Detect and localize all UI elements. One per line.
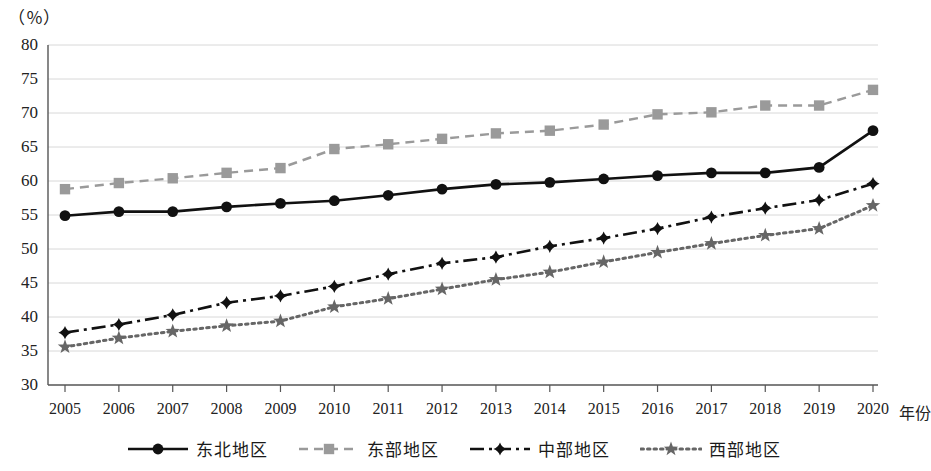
data-point-marker	[437, 134, 447, 144]
data-point-marker	[114, 178, 124, 188]
data-point-marker	[153, 443, 164, 454]
x-axis-tick-label: 2019	[803, 400, 835, 418]
data-point-marker	[219, 318, 233, 332]
series-line	[65, 131, 873, 216]
legend-star-marker	[640, 439, 702, 459]
data-point-marker	[383, 139, 393, 149]
data-point-marker	[166, 324, 180, 338]
chart-legend: 东北地区东部地区中部地区西部地区	[0, 436, 908, 461]
data-point-marker	[167, 206, 178, 217]
legend-item[interactable]: 西部地区	[640, 436, 781, 461]
data-point-marker	[328, 280, 341, 293]
y-axis-tick-label: 80	[4, 35, 38, 55]
y-axis-tick-label: 60	[4, 171, 38, 191]
data-point-marker	[597, 232, 610, 245]
y-axis-tick-label: 65	[4, 137, 38, 157]
x-axis-tick-label: 2012	[426, 400, 458, 418]
data-point-marker	[493, 442, 506, 455]
x-axis-tick-label: 2014	[534, 400, 566, 418]
data-point-marker	[329, 144, 339, 154]
data-point-marker	[664, 441, 678, 455]
x-axis-tick-label: 2016	[642, 400, 674, 418]
data-point-marker	[221, 168, 231, 178]
data-point-marker	[60, 184, 70, 194]
data-point-marker	[651, 222, 664, 235]
x-axis-tick-label: 2015	[588, 400, 620, 418]
x-axis-tick-label: 2010	[318, 400, 350, 418]
x-axis-tick-label: 2007	[157, 400, 189, 418]
y-axis-tick-label: 30	[4, 375, 38, 395]
legend-label: 中部地区	[538, 436, 610, 461]
data-point-marker	[652, 170, 663, 181]
data-point-marker	[58, 326, 71, 339]
data-point-marker	[491, 179, 502, 190]
data-point-marker	[543, 265, 557, 279]
data-point-marker	[812, 221, 826, 235]
data-point-marker	[759, 202, 772, 215]
data-point-marker	[273, 313, 287, 327]
legend-circle-marker	[127, 439, 189, 459]
series-line	[65, 184, 873, 333]
series-line	[65, 205, 873, 346]
legend-item[interactable]: 东部地区	[298, 436, 439, 461]
x-axis-tick-label: 2017	[695, 400, 727, 418]
data-point-marker	[324, 443, 334, 453]
legend-square-marker	[298, 439, 360, 459]
y-axis-tick-label: 50	[4, 239, 38, 259]
data-point-marker	[489, 251, 502, 264]
data-point-marker	[166, 308, 179, 321]
data-point-marker	[220, 296, 233, 309]
x-axis-tick-label: 2006	[103, 400, 135, 418]
data-point-marker	[381, 291, 395, 305]
x-axis-tick-label: 2008	[211, 400, 243, 418]
data-point-marker	[652, 109, 662, 119]
data-point-marker	[489, 272, 503, 286]
data-point-marker	[274, 289, 287, 302]
data-point-marker	[650, 245, 664, 259]
x-axis-tick-label: 2020	[857, 400, 889, 418]
data-point-marker	[868, 85, 878, 95]
legend-label: 东北地区	[196, 436, 268, 461]
y-axis-tick-label: 70	[4, 103, 38, 123]
data-point-marker	[327, 299, 341, 313]
data-point-marker	[760, 100, 770, 110]
x-axis-tick-label: 2013	[480, 400, 512, 418]
data-point-marker	[596, 254, 610, 268]
legend-item[interactable]: 中部地区	[469, 436, 610, 461]
legend-label: 东部地区	[367, 436, 439, 461]
data-point-marker	[543, 240, 556, 253]
data-point-marker	[705, 210, 718, 223]
data-point-marker	[544, 177, 555, 188]
data-point-marker	[866, 198, 880, 212]
data-point-marker	[704, 236, 718, 250]
data-point-marker	[813, 193, 826, 206]
y-axis-tick-label: 75	[4, 69, 38, 89]
data-point-marker	[598, 174, 609, 185]
data-point-marker	[383, 190, 394, 201]
legend-item[interactable]: 东北地区	[127, 436, 268, 461]
series-line	[65, 90, 873, 189]
data-point-marker	[545, 125, 555, 135]
data-point-marker	[491, 128, 501, 138]
data-point-marker	[760, 167, 771, 178]
x-axis-tick-label: 2011	[372, 400, 403, 418]
data-point-marker	[868, 125, 879, 136]
x-axis-tick-label: 2018	[749, 400, 781, 418]
data-point-marker	[437, 184, 448, 195]
data-point-marker	[706, 107, 716, 117]
data-point-marker	[168, 173, 178, 183]
y-axis-tick-label: 45	[4, 273, 38, 293]
data-point-marker	[60, 210, 71, 221]
legend-label: 西部地区	[709, 436, 781, 461]
x-axis-tick-label: 2009	[264, 400, 296, 418]
y-axis-tick-label: 55	[4, 205, 38, 225]
data-point-marker	[814, 162, 825, 173]
legend-diamond-marker	[469, 439, 531, 459]
data-point-marker	[435, 282, 449, 296]
data-point-marker	[329, 195, 340, 206]
data-point-marker	[866, 177, 879, 190]
data-point-marker	[435, 257, 448, 270]
data-point-marker	[814, 100, 824, 110]
y-axis-tick-label: 40	[4, 307, 38, 327]
